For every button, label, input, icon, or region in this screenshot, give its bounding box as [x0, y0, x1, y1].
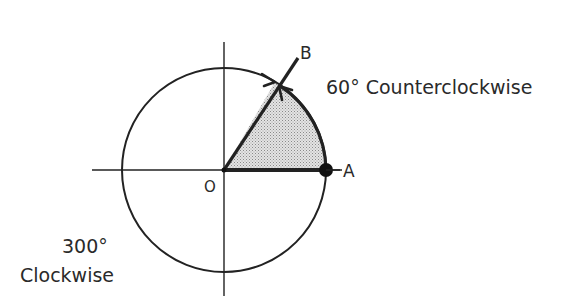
- origin-dot: [222, 168, 227, 173]
- label-cw-angle-value: 300°: [62, 235, 108, 257]
- label-cw-angle-direction: Clockwise: [20, 264, 114, 286]
- label-ccw-angle: 60° Counterclockwise: [326, 76, 532, 98]
- label-point-b: B: [300, 43, 312, 63]
- label-point-a: A: [343, 161, 355, 181]
- label-origin: O: [204, 178, 216, 196]
- cw-arrowhead-icon: [262, 74, 275, 86]
- angle-diagram: B A O 60° Counterclockwise 300° Clockwis…: [0, 0, 570, 300]
